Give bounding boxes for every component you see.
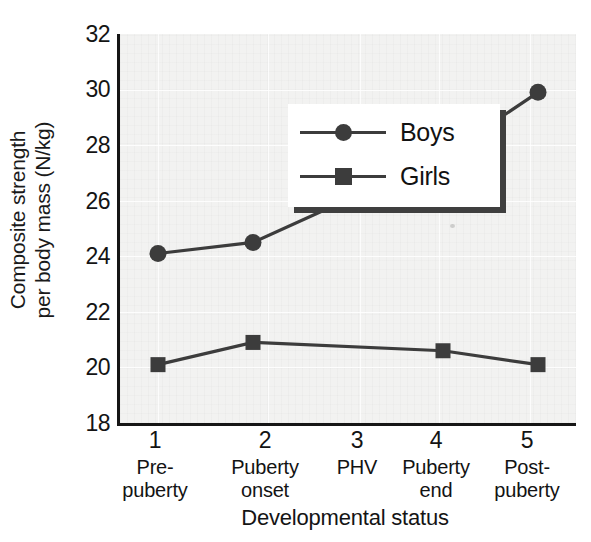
series-canvas [120, 34, 576, 423]
y-axis-title-line1: Composite strength [5, 45, 30, 395]
y-tick-label-20: 20 [64, 356, 110, 379]
x-category-label-2-line2: onset [200, 479, 330, 502]
x-category-5: 5 Post- puberty [462, 427, 591, 502]
data-point-square [436, 343, 451, 358]
data-point-square [246, 335, 261, 350]
y-tick-label-32: 32 [64, 23, 110, 46]
circle-marker-icon [335, 124, 352, 141]
data-point-circle [530, 84, 547, 101]
y-tick-label-26: 26 [64, 190, 110, 213]
chart-figure: Composite strength per body mass (N/kg) … [0, 0, 591, 542]
data-point-circle [245, 234, 262, 251]
plot-area: Boys Girls [117, 34, 576, 426]
legend-label-girls: Girls [400, 164, 450, 189]
legend: Boys Girls [288, 104, 500, 207]
square-marker-icon [335, 168, 352, 185]
x-tick-label-5: 5 [462, 427, 591, 454]
data-point-circle [150, 245, 167, 262]
y-axis-tick-labels: 32 30 28 26 24 22 20 18 [58, 0, 110, 440]
legend-sample-girls [300, 161, 386, 191]
x-axis-tick-labels: 1 Pre- puberty 2 Puberty onset 3 PHV 4 P… [117, 427, 573, 517]
y-tick-label-28: 28 [64, 134, 110, 157]
legend-item-girls: Girls [288, 156, 500, 196]
data-point-square [531, 357, 546, 372]
y-tick-label-22: 22 [64, 301, 110, 324]
legend-box: Boys Girls [288, 104, 500, 207]
x-category-label-5-line2: puberty [462, 479, 591, 502]
y-tick-label-24: 24 [64, 245, 110, 268]
x-axis-title: Developmental status [117, 505, 573, 531]
legend-sample-boys [300, 117, 386, 147]
y-axis-title-line2: per body mass (N/kg) [30, 45, 55, 395]
data-point-square [151, 357, 166, 372]
series-girls [151, 335, 546, 372]
x-category-label-5-line1: Post- [462, 456, 591, 479]
legend-item-boys: Boys [288, 112, 500, 152]
y-tick-label-30: 30 [64, 78, 110, 101]
series-line-girls [158, 342, 538, 364]
legend-label-boys: Boys [400, 120, 454, 145]
x-category-label-5: Post- puberty [462, 456, 591, 502]
y-axis-title: Composite strength per body mass (N/kg) [0, 0, 60, 430]
